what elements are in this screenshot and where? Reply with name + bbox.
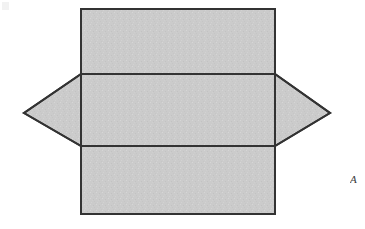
rectangle-shape [81,9,275,214]
figure-canvas: A Rectangle overlapping hexagon net diag… [0,0,365,229]
geometry-figure [0,0,365,229]
